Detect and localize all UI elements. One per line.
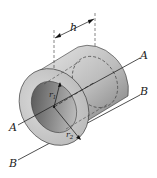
label-axis-b-right: B xyxy=(139,85,148,98)
label-h: h xyxy=(70,21,77,34)
label-axis-b-left: B xyxy=(8,157,17,170)
h-arrow-left xyxy=(55,33,61,38)
label-axis-a-right: A xyxy=(139,49,148,62)
hollow-cylinder-diagram: h r1 r2 A B A B xyxy=(0,0,157,178)
label-axis-a-left: A xyxy=(8,121,17,134)
h-arrow-right xyxy=(88,19,94,24)
diagram-canvas: h r1 r2 A B A B xyxy=(0,0,157,178)
